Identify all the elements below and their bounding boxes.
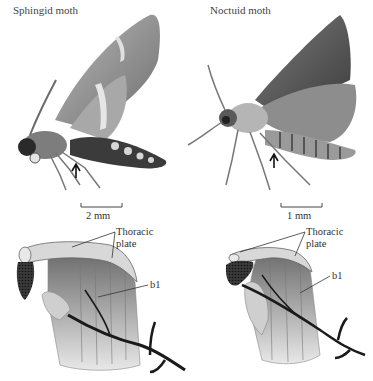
noctuid-b1-label: b1 [332, 270, 343, 282]
noctuid-thoracic-plate-label-1: Thoracic [306, 226, 343, 238]
noctuid-thoracic-plate-label-2: plate [306, 238, 326, 250]
noctuid-thorax-diagram [226, 232, 365, 364]
sphingid-moth-illustration [18, 15, 166, 190]
illustration-canvas [0, 0, 373, 381]
sphingid-scale-bar [81, 203, 122, 207]
sphingid-moth-title: Sphingid moth [13, 4, 78, 16]
noctuid-moth-title: Noctuid moth [210, 4, 271, 16]
noctuid-moth-illustration [188, 15, 356, 190]
sphingid-thoracic-plate-label-1: Thoracic [116, 226, 153, 238]
sphingid-b1-label: b1 [150, 279, 161, 291]
sphingid-scale-label: 2 mm [86, 210, 110, 221]
sphingid-thorax-diagram [17, 232, 185, 372]
sphingid-thoracic-plate-label-2: plate [116, 238, 136, 250]
noctuid-scale-label: 1 mm [287, 210, 311, 221]
noctuid-scale-bar [281, 203, 322, 207]
